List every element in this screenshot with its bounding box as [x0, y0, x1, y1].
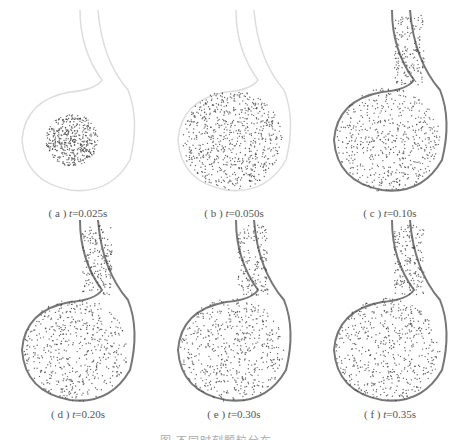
panel-caption: ( d ) t=0.20s — [0, 408, 156, 420]
particle-distribution-plot — [312, 210, 468, 410]
panel-d: ( d ) t=0.20s — [0, 210, 156, 410]
panel-caption: ( f ) t=0.35s — [312, 408, 468, 420]
panel-f: ( f ) t=0.35s — [312, 210, 468, 410]
particle-distribution-plot — [0, 0, 156, 200]
panel-a: ( a ) t=0.025s — [0, 0, 156, 200]
particle-distribution-plot — [0, 210, 156, 410]
particle-distribution-plot — [312, 0, 468, 200]
panel-caption: ( e ) t=0.30s — [156, 408, 312, 420]
panel-e: ( e ) t=0.30s — [156, 210, 312, 410]
figure-caption: 图 不同时刻颗粒分布 — [160, 432, 272, 440]
panel-b: ( b ) t=0.050s — [156, 0, 312, 200]
particle-distribution-plot — [156, 0, 312, 200]
particle-distribution-plot — [156, 210, 312, 410]
panel-c: ( c ) t=0.10s — [312, 0, 468, 200]
